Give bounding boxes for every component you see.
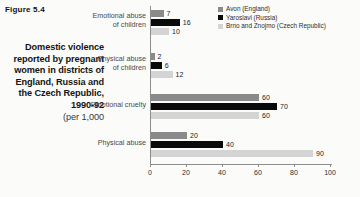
x-axis-tick-label: 100 [324, 169, 336, 176]
bar-value-label: 6 [165, 62, 169, 69]
category-label: Physical abuse of children [20, 55, 146, 72]
bar [151, 141, 223, 148]
category-label: Physical abuse [20, 139, 146, 148]
bar [151, 103, 277, 110]
category-label: Emotional abuse of children [20, 12, 146, 29]
x-axis-tick [222, 164, 223, 167]
bar-value-label: 12 [176, 71, 184, 78]
bar-value-label: 10 [172, 28, 180, 35]
bar [151, 71, 173, 78]
x-axis-tick-label: 40 [218, 169, 226, 176]
caption-sub: (per 1,000 [0, 112, 104, 124]
x-axis-tick-label: 80 [290, 169, 298, 176]
bar [151, 150, 313, 157]
bar [151, 10, 164, 17]
bar-value-label: 16 [183, 19, 191, 26]
x-axis-tick [258, 164, 259, 167]
bar-value-label: 7 [167, 10, 171, 17]
bar-value-label: 20 [190, 132, 198, 139]
bar-value-label: 60 [262, 112, 270, 119]
bar-value-label: 70 [280, 103, 288, 110]
bar-value-label: 90 [316, 150, 324, 157]
bar [151, 94, 259, 101]
bar [151, 28, 169, 35]
x-axis-line [150, 164, 332, 165]
bar [151, 53, 155, 60]
bar [151, 112, 259, 119]
x-axis-tick-label: 0 [148, 169, 152, 176]
figure-container: Figure 5.4 Domestic violence reported by… [0, 0, 360, 197]
bar-value-label: 2 [158, 53, 162, 60]
x-axis-tick [294, 164, 295, 167]
x-axis-tick-label: 60 [254, 169, 262, 176]
x-axis-tick [150, 164, 151, 167]
x-axis-tick [330, 164, 331, 167]
bar-value-label: 40 [226, 141, 234, 148]
bar-value-label: 60 [262, 94, 270, 101]
plot-area: 020406080100716102612607060204090 [150, 6, 332, 164]
bar [151, 19, 180, 26]
x-axis-tick-label: 20 [182, 169, 190, 176]
x-axis-tick [186, 164, 187, 167]
bar [151, 62, 162, 69]
bar [151, 132, 187, 139]
category-label: Emotional cruelty [20, 101, 146, 110]
